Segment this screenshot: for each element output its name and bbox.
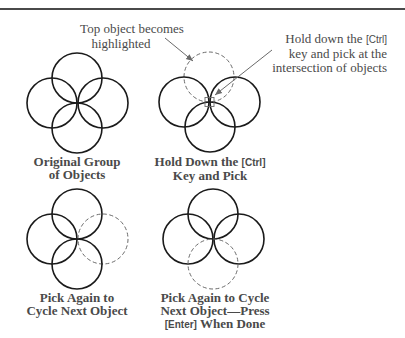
circle-bottom — [52, 239, 102, 289]
caption-panel-1: Original Group of Objects — [17, 155, 137, 181]
callout-line: Top object becomes — [80, 22, 184, 35]
circle-left — [27, 214, 77, 264]
circle-left — [159, 77, 209, 127]
circle-top — [52, 53, 102, 103]
caption-panel-3: Pick Again to Cycle Next Object — [17, 291, 137, 317]
circle-right — [214, 214, 264, 264]
callout-line: highlighted — [80, 37, 184, 50]
panel-2-circles — [159, 52, 260, 152]
caption-panel-4: Pick Again to Cycle Next Object—Press [E… — [150, 291, 280, 331]
callout-line: intersection of objects — [262, 61, 387, 74]
callout-text: Hold down the — [285, 31, 366, 46]
callout-line: Hold down the [Ctrl] — [262, 32, 387, 46]
circle-top — [52, 189, 102, 239]
circle-bottom — [52, 103, 102, 153]
panel-1-circles — [27, 53, 128, 153]
callout-line: key and pick at the — [262, 47, 387, 60]
circle-right — [78, 78, 128, 128]
panel-3-circles — [27, 189, 128, 289]
circle-left — [27, 78, 77, 128]
circle-right-highlighted — [78, 214, 128, 264]
caption-panel-2: Hold Down the [Ctrl] Key and Pick — [145, 155, 275, 182]
callout-hold-ctrl: Hold down the [Ctrl] key and pick at the… — [262, 32, 387, 74]
circle-top — [188, 189, 238, 239]
caption-line: Cycle Next Object — [17, 304, 137, 317]
caption-line: Key and Pick — [145, 169, 275, 182]
caption-text: When Done — [197, 316, 265, 331]
circle-left — [163, 214, 213, 264]
callout-top-object: Top object becomes highlighted — [80, 22, 184, 50]
caption-line: Hold Down the [Ctrl] — [145, 155, 275, 169]
caption-line: [Enter] When Done — [150, 317, 280, 331]
circle-right — [210, 77, 260, 127]
circle-bottom-highlighted — [188, 239, 238, 289]
panel-4-circles — [163, 189, 264, 289]
ctrl-key-label: [Ctrl] — [242, 157, 266, 168]
ctrl-key-label: [Ctrl] — [366, 34, 387, 45]
caption-text: Hold Down the — [155, 154, 242, 169]
enter-key-label: [Enter] — [165, 319, 197, 330]
circle-bottom — [185, 102, 235, 152]
caption-line: of Objects — [17, 168, 137, 181]
